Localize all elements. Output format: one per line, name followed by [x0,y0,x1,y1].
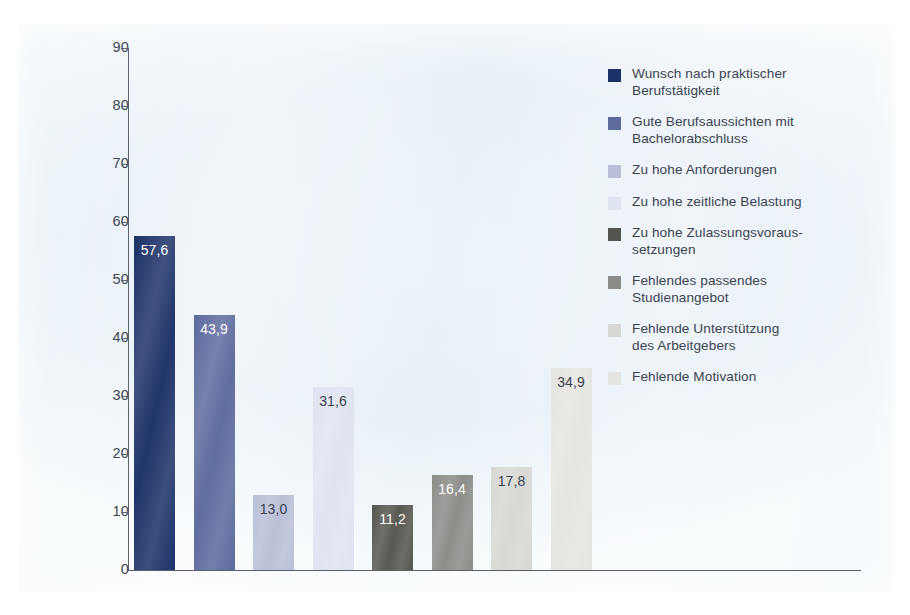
legend-color-swatch [608,228,621,241]
y-axis-line [128,48,129,571]
legend-item[interactable]: Fehlendes passendes Studienangebot [608,273,888,306]
legend-item-label: Fehlende Unterstützung des Arbeitgebers [632,321,779,354]
legend-item[interactable]: Fehlende Unterstützung des Arbeitgebers [608,321,888,354]
legend-item[interactable]: Wunsch nach praktischer Berufstätigkeit [608,66,888,99]
x-axis-baseline [128,570,861,571]
y-tick-mark [121,454,129,455]
bar: 57,6 [134,236,175,570]
bar-value-label: 57,6 [134,243,175,257]
legend-item[interactable]: Gute Berufsaussichten mit Bachelorabschl… [608,114,888,147]
scanned-page: 9080706050403020100 57,643,913,031,611,2… [0,0,910,615]
legend-item[interactable]: Zu hohe Anforderungen [608,162,888,179]
y-tick-mark [121,338,129,339]
bar: 31,6 [313,387,354,570]
bar-value-label: 17,8 [491,474,532,488]
bar: 43,9 [194,315,235,570]
bar-scan-sheen [134,236,175,570]
bar: 11,2 [372,505,413,570]
bar-value-label: 16,4 [432,482,473,496]
bar-value-label: 11,2 [372,512,413,526]
bar: 13,0 [253,495,294,570]
legend-color-swatch [608,324,621,337]
bar: 16,4 [432,475,473,570]
legend-color-swatch [608,69,621,82]
bar-value-label: 34,9 [551,375,592,389]
bar-chart: 9080706050403020100 57,643,913,031,611,2… [0,0,910,615]
chart-legend: Wunsch nach praktischer BerufstätigkeitG… [608,66,888,401]
y-tick-mark [121,164,129,165]
legend-item-label: Wunsch nach praktischer Berufstätigkeit [632,66,787,99]
bar-scan-sheen [551,368,592,570]
legend-color-swatch [608,165,621,178]
y-tick-mark [121,396,129,397]
legend-color-swatch [608,117,621,130]
legend-item[interactable]: Fehlende Motivation [608,369,888,386]
legend-item[interactable]: Zu hohe zeitliche Belastung [608,194,888,211]
bar-scan-sheen [194,315,235,570]
legend-color-swatch [608,276,621,289]
bar-value-label: 31,6 [313,394,354,408]
legend-color-swatch [608,372,621,385]
bar-value-label: 13,0 [253,502,294,516]
legend-item-label: Fehlende Motivation [632,369,756,386]
legend-item-label: Zu hohe zeitliche Belastung [632,194,802,211]
y-tick-mark [121,280,129,281]
bar-value-label: 43,9 [194,322,235,336]
y-tick-mark [121,222,129,223]
bar: 34,9 [551,368,592,570]
bar-scan-sheen [313,387,354,570]
y-tick-label: 0 [87,562,129,577]
legend-item-label: Zu hohe Zulassungsvoraus- setzungen [632,225,803,258]
bar: 17,8 [491,467,532,570]
y-tick-mark [121,512,129,513]
legend-item[interactable]: Zu hohe Zulassungsvoraus- setzungen [608,225,888,258]
legend-color-swatch [608,197,621,210]
legend-item-label: Zu hohe Anforderungen [632,162,777,179]
y-tick-mark [121,48,129,49]
y-tick-mark [121,106,129,107]
legend-item-label: Fehlendes passendes Studienangebot [632,273,767,306]
legend-item-label: Gute Berufsaussichten mit Bachelorabschl… [632,114,794,147]
